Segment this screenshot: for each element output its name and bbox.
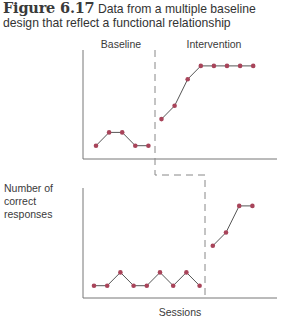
data-point [105, 283, 110, 288]
data-point [237, 204, 242, 209]
phase-label-baseline: Baseline [101, 38, 141, 50]
data-point [197, 283, 202, 288]
data-point [92, 283, 97, 288]
y-axis-label-line3: responses [4, 208, 52, 220]
bottom-panel-axes [83, 188, 277, 298]
phase-label-intervention: Intervention [187, 38, 242, 50]
x-axis-label: Sessions [159, 306, 202, 318]
data-point [94, 143, 99, 148]
data-point [158, 270, 163, 275]
data-point [171, 283, 176, 288]
data-point [250, 204, 255, 209]
data-point [107, 130, 112, 135]
data-point [251, 64, 256, 69]
data-point [199, 64, 204, 69]
phase-change-line [155, 50, 205, 298]
multiple-baseline-chart: Baseline Intervention Number of correct … [0, 0, 291, 325]
data-point [120, 130, 125, 135]
data-point [146, 143, 151, 148]
data-point [212, 64, 217, 69]
data-point [225, 64, 230, 69]
data-point [159, 117, 164, 122]
data-point [145, 283, 150, 288]
data-point [211, 244, 216, 249]
data-point [118, 270, 123, 275]
data-point [185, 77, 190, 82]
data-point [172, 104, 177, 109]
top-intervention-line [162, 66, 254, 119]
y-axis-label-line2: correct [4, 195, 36, 207]
data-series [92, 64, 256, 288]
data-point [224, 230, 229, 235]
data-point [133, 143, 138, 148]
data-point [238, 64, 243, 69]
y-axis-label-line1: Number of [4, 182, 53, 194]
bottom-intervention-line [213, 206, 253, 246]
data-point [184, 270, 189, 275]
data-point [131, 283, 136, 288]
